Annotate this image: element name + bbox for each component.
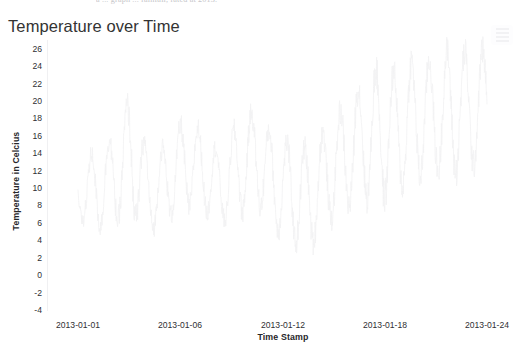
screenshot-root: a ... graph ... rainfall, rated at 2013.… bbox=[0, 0, 526, 354]
y-axis-tick-label: 8 bbox=[37, 200, 42, 210]
clipped-document-text-content: a ... graph ... rainfall, rated at 2013. bbox=[96, 0, 217, 4]
y-axis-tick-label: -2 bbox=[34, 288, 42, 298]
hamburger-bar-2 bbox=[496, 32, 509, 33]
y-axis-tick-label: 22 bbox=[32, 79, 42, 89]
y-axis-tick-label: 14 bbox=[32, 148, 42, 158]
x-axis-tick-label: 2013-01-24 bbox=[465, 320, 509, 330]
hamburger-icon[interactable] bbox=[491, 25, 513, 45]
clipped-document-text: a ... graph ... rainfall, rated at 2013. bbox=[0, 0, 526, 11]
y-axis-ticks: 26242220181614121086420-2-4 bbox=[0, 11, 47, 354]
y-axis-tick-label: 16 bbox=[32, 131, 42, 141]
y-axis-tick-label: 12 bbox=[32, 166, 42, 176]
hamburger-bar-1 bbox=[496, 28, 509, 29]
y-axis-tick-label: 18 bbox=[32, 113, 42, 123]
y-axis-tick-label: 0 bbox=[37, 270, 42, 280]
x-axis-label: Time Stamp bbox=[0, 332, 526, 342]
x-axis-tick-label: 2013-01-06 bbox=[158, 320, 202, 330]
hamburger-bar-3 bbox=[496, 36, 509, 37]
y-axis-tick-label: -4 bbox=[34, 305, 42, 315]
x-axis-tick-label: 2013-01-18 bbox=[363, 320, 407, 330]
y-axis-tick-label: 10 bbox=[32, 183, 42, 193]
plot-area bbox=[47, 40, 487, 310]
y-axis-tick-label: 4 bbox=[37, 235, 42, 245]
hamburger-bar-4 bbox=[496, 40, 509, 41]
y-axis-tick-label: 2 bbox=[37, 253, 42, 263]
temperature-chart: Temperature over Time 262422201816141210… bbox=[0, 11, 526, 354]
y-axis-tick-label: 24 bbox=[32, 61, 42, 71]
y-axis-tick-label: 20 bbox=[32, 96, 42, 106]
y-axis-tick-label: 6 bbox=[37, 218, 42, 228]
x-axis-tick-label: 2013-01-01 bbox=[56, 320, 100, 330]
temperature-series bbox=[47, 40, 487, 310]
y-axis-tick-label: 26 bbox=[32, 44, 42, 54]
x-axis-tick-label: 2013-01-12 bbox=[261, 320, 305, 330]
y-axis-label: Temperature in Celcius bbox=[11, 106, 21, 256]
